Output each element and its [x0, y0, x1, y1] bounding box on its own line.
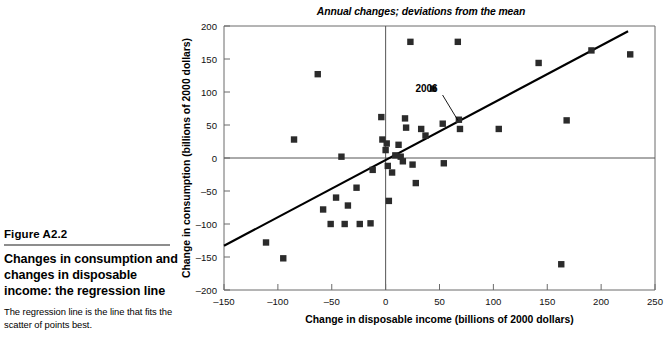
data-point: [385, 163, 391, 169]
data-point: [588, 47, 594, 53]
data-point: [353, 185, 359, 191]
x-tick-label: 100: [485, 296, 501, 307]
data-point: [263, 239, 269, 245]
x-tick-label: 200: [593, 296, 609, 307]
data-point: [403, 124, 409, 130]
data-point: [320, 206, 326, 212]
data-point: [395, 142, 401, 148]
x-tick-label: –150: [213, 296, 234, 307]
annotation-label-2006: 2006: [415, 83, 438, 94]
data-point: [407, 39, 413, 45]
figure-caption-block: Figure A2.2 Changes in consumption and c…: [4, 228, 182, 331]
data-point: [441, 160, 447, 166]
y-tick-label: 200: [201, 21, 217, 32]
data-point: [386, 198, 392, 204]
data-point: [341, 221, 347, 227]
data-point: [382, 147, 388, 153]
data-point: [535, 60, 541, 66]
y-axis-title: Change in consumption (billions of 2000 …: [181, 38, 192, 278]
data-point: [402, 115, 408, 121]
data-point: [400, 158, 406, 164]
x-tick-label: 250: [647, 296, 663, 307]
figure-root: Figure A2.2 Changes in consumption and c…: [0, 0, 672, 341]
y-tick-label: 100: [201, 87, 217, 98]
data-point: [384, 140, 390, 146]
y-tick-label: –100: [196, 219, 217, 230]
data-point: [345, 202, 351, 208]
y-tick-label: –200: [196, 285, 217, 296]
annotation-leader-line: [443, 95, 458, 120]
data-point: [327, 221, 333, 227]
y-tick-label: –50: [201, 186, 217, 197]
data-point: [627, 51, 633, 57]
chart-container: Annual changes; deviations from the mean…: [170, 0, 672, 341]
data-point: [558, 261, 564, 267]
data-point: [338, 153, 344, 159]
x-tick-label: 0: [383, 296, 388, 307]
data-point: [378, 114, 384, 120]
data-point: [389, 169, 395, 175]
data-point: [413, 180, 419, 186]
y-tick-label: 50: [206, 120, 217, 131]
data-point: [440, 120, 446, 126]
y-tick-label: 0: [212, 153, 217, 164]
data-point: [333, 194, 339, 200]
data-point: [455, 39, 461, 45]
data-point: [357, 221, 363, 227]
data-point: [291, 136, 297, 142]
x-tick-label: –50: [324, 296, 340, 307]
data-point: [280, 255, 286, 261]
data-point: [422, 132, 428, 138]
data-point: [369, 167, 375, 173]
data-point: [315, 71, 321, 77]
figure-title: Changes in consumption and changes in di…: [4, 251, 182, 299]
figure-subtitle: The regression line is the line that fit…: [4, 306, 182, 331]
y-tick-label: 150: [201, 54, 217, 65]
x-tick-label: 150: [539, 296, 555, 307]
x-tick-label: 50: [434, 296, 445, 307]
figure-number: Figure A2.2: [4, 228, 182, 243]
caption-divider: [4, 244, 170, 246]
data-point: [409, 161, 415, 167]
x-tick-label: –100: [267, 296, 288, 307]
x-axis-title: Change in disposable income (billions of…: [305, 314, 573, 325]
y-tick-label: –150: [196, 252, 217, 263]
data-point: [496, 126, 502, 132]
data-point: [563, 117, 569, 123]
scatter-plot: –200–150–100–50050100150200–150–100–5005…: [170, 0, 672, 341]
data-point: [457, 126, 463, 132]
data-point: [418, 126, 424, 132]
data-point: [367, 220, 373, 226]
